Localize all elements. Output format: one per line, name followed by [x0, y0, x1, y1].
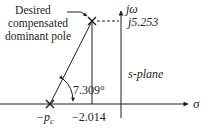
annotation-line-2: compensated	[0, 17, 78, 30]
imag-axis-label: jω	[126, 3, 138, 15]
annotation-line-3: dominant pole	[0, 30, 78, 43]
pole-real-label: −2.014	[72, 111, 106, 123]
s-plane-label-text: s-plane	[128, 67, 163, 81]
angle-arc	[63, 79, 73, 101]
compensator-pole-label: −pc	[36, 111, 54, 126]
pole-imag-label: j5.253	[128, 16, 158, 28]
annotation-line-1: Desired	[0, 4, 78, 17]
angle-label: 7.309°	[73, 84, 105, 96]
compensator-pole-label-sub: c	[50, 116, 54, 126]
dominant-pole-annotation: Desired compensated dominant pole	[0, 4, 78, 43]
compensator-pole-label-main: −p	[36, 110, 50, 124]
s-plane-label: s-plane	[128, 68, 163, 80]
real-axis-label: σ	[193, 97, 199, 110]
